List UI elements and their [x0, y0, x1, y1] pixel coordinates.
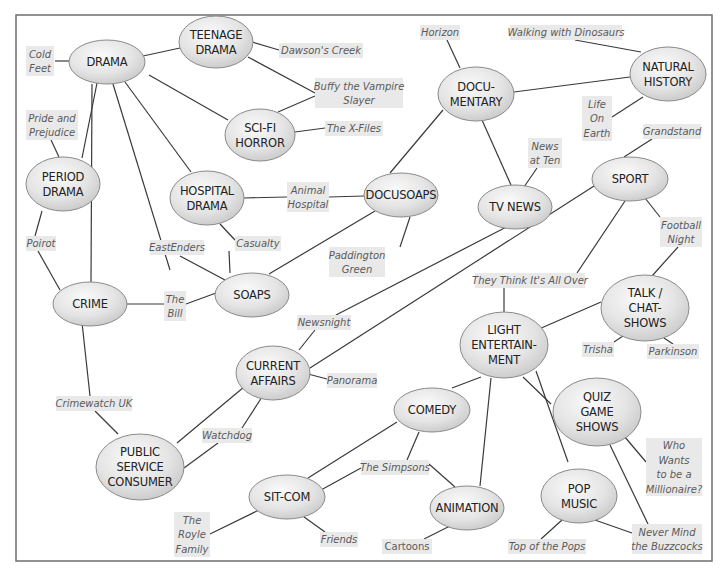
example-watchdog: Watchdog: [202, 428, 252, 443]
node-label: HOSPITAL: [180, 184, 235, 198]
example-football-night: FootballNight: [660, 217, 702, 247]
example-animal-hospital: AnimalHospital: [287, 182, 329, 212]
example-cartoons: Cartoons: [382, 539, 432, 554]
example-label: Night: [668, 234, 696, 245]
example-label: Panorama: [327, 375, 378, 386]
example-label: Dawson's Creek: [281, 45, 362, 56]
node-label: NATURAL: [642, 60, 694, 74]
example-label: Family: [175, 544, 209, 555]
node-public-service-consumer: PUBLICSERVICECONSUMER: [96, 434, 184, 500]
node-soaps: SOAPS: [215, 273, 289, 317]
example-label: at Ten: [530, 155, 561, 166]
example-the-x-files: The X-Files: [325, 121, 383, 136]
example-they-think-its-all-over: They Think It's All Over: [472, 273, 589, 288]
example-label: Pride and: [28, 113, 76, 124]
node-quiz-game-shows: QUIZGAMESHOWS: [553, 378, 641, 446]
node-label: CRIME: [72, 297, 108, 311]
example-eastenders: EastEnders: [149, 240, 205, 255]
example-label: Animal: [290, 185, 326, 196]
example-label: Cold: [29, 49, 52, 60]
node-label: SHOWS: [624, 316, 667, 330]
example-label: to be a: [656, 469, 691, 480]
node-comedy: COMEDY: [394, 388, 470, 432]
example-panorama: Panorama: [327, 373, 378, 388]
example-label: Bill: [167, 308, 182, 319]
node-sci-fi-horror: SCI-FIHORROR: [225, 109, 295, 161]
example-label: Slayer: [343, 95, 375, 106]
node-label: LIGHT: [487, 323, 522, 337]
example-label: Top of the Pops: [509, 541, 586, 552]
example-dawsons-creek: Dawson's Creek: [279, 43, 363, 58]
node-label: SIT-COM: [264, 490, 310, 504]
example-label: Millionaire?: [646, 484, 703, 495]
example-label: The: [166, 294, 185, 305]
example-label: Cartoons: [385, 541, 430, 552]
example-the-bill: TheBill: [164, 291, 186, 321]
example-label: Who: [663, 440, 685, 451]
node-sit-com: SIT-COM: [249, 475, 325, 519]
example-grandstand: Grandstand: [643, 124, 702, 139]
node-label: AFFAIRS: [250, 374, 295, 388]
example-label: Hospital: [288, 199, 329, 210]
example-label: Wants: [659, 455, 690, 466]
example-label: The Simpsons: [360, 462, 430, 473]
node-teenage-drama: TEENAGEDRAMA: [179, 16, 253, 68]
example-label: Parkinson: [649, 346, 698, 357]
node-label: DOCU-: [457, 80, 495, 94]
example-horizon: Horizon: [420, 25, 460, 40]
example-label: Feet: [29, 63, 52, 74]
example-label: Life: [588, 99, 606, 110]
node-label: CURRENT: [246, 359, 301, 373]
node-label: DRAMA: [195, 43, 236, 57]
example-label: Royle: [178, 529, 206, 540]
example-parkinson: Parkinson: [647, 344, 699, 359]
node-label: SERVICE: [116, 460, 163, 474]
example-label: Newsnight: [298, 317, 352, 328]
example-buffy-the-vampire-slayer: Buffy the VampireSlayer: [314, 78, 405, 108]
node-documentary: DOCU-MENTARY: [438, 67, 514, 121]
example-casualty: Casualty: [235, 236, 281, 251]
node-period-drama: PERIODDRAMA: [26, 157, 100, 211]
node-label: PUBLIC: [120, 445, 160, 459]
node-label: DRAMA: [186, 199, 227, 213]
example-walking-with-dinosaurs: Walking with Dinosaurs: [507, 25, 624, 40]
example-news-at-ten: Newsat Ten: [528, 138, 562, 168]
example-label: Paddington: [329, 250, 386, 261]
example-label: Grandstand: [643, 126, 702, 137]
example-never-mind-the-buzzcocks: Never Mindthe Buzzcocks: [631, 524, 702, 554]
node-label: DOCUSOAPS: [366, 188, 437, 202]
node-hospital-drama: HOSPITALDRAMA: [170, 171, 244, 225]
node-current-affairs: CURRENTAFFAIRS: [236, 346, 310, 400]
node-label: MENTARY: [450, 95, 504, 109]
node-label: SCI-FI: [244, 121, 276, 135]
example-label: the Buzzcocks: [631, 541, 702, 552]
example-life-on-earth: LifeOnEarth: [582, 96, 612, 141]
node-tv-news: TV NEWS: [478, 185, 552, 229]
example-label: Friends: [321, 534, 358, 545]
node-natural-history: NATURALHISTORY: [630, 47, 706, 101]
node-label: ENTERTAIN-: [471, 338, 537, 352]
example-label: Crimewatch UK: [56, 398, 134, 409]
example-label: Trisha: [583, 344, 613, 355]
example-label: Watchdog: [202, 430, 252, 441]
node-label: POP: [568, 482, 591, 496]
node-drama: DRAMA: [69, 40, 145, 84]
node-animation: ANIMATION: [430, 486, 504, 530]
node-label: HISTORY: [644, 75, 693, 89]
node-label: DRAMA: [42, 185, 83, 199]
example-label: Casualty: [236, 238, 280, 249]
node-label: COMEDY: [408, 403, 457, 417]
node-label: CONSUMER: [108, 475, 173, 489]
example-label: The X-Files: [327, 123, 381, 134]
tv-genre-concept-map: ColdFeetPride andPrejudicePoirotDawson's…: [0, 0, 726, 580]
example-the-simpsons: The Simpsons: [360, 460, 430, 475]
node-light-entertainment: LIGHTENTERTAIN-MENT: [460, 312, 548, 378]
node-label: PERIOD: [42, 170, 85, 184]
example-pride-and-prejudice: Pride andPrejudice: [26, 110, 78, 140]
node-label: ANIMATION: [435, 501, 498, 515]
node-label: DRAMA: [86, 55, 127, 69]
example-label: They Think It's All Over: [472, 275, 589, 286]
node-label: MUSIC: [561, 497, 597, 511]
node-label: SHOWS: [576, 420, 619, 434]
example-friends: Friends: [320, 532, 358, 547]
